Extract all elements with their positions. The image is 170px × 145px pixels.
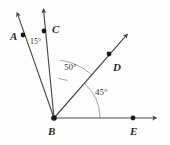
point-label-E: E xyxy=(130,126,137,137)
angle-label-15: 15° xyxy=(30,38,41,46)
dot-E xyxy=(131,116,136,121)
point-label-C: C xyxy=(52,24,59,35)
rays xyxy=(18,10,156,118)
point-label-A: A xyxy=(10,31,17,42)
dot-C xyxy=(42,29,47,34)
angle-diagram: A C D B E 15° 50° 45° xyxy=(0,0,170,145)
angle-label-50: 50° xyxy=(64,63,77,72)
arc-15 xyxy=(58,78,68,80)
dot-D xyxy=(107,52,112,57)
point-label-D: D xyxy=(113,62,121,73)
geometry-canvas xyxy=(0,0,170,145)
point-label-B: B xyxy=(48,126,55,137)
angle-label-45: 45° xyxy=(95,88,108,97)
dot-A xyxy=(21,33,26,38)
dot-B xyxy=(51,115,57,121)
ray-BD xyxy=(54,35,127,118)
